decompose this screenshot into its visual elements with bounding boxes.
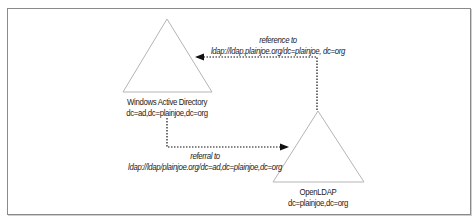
active-directory-name: Windows Active Directory: [127, 96, 207, 107]
referral-label-url: ldap://ldap/plainjoe.org/dc=ad,dc=plainj…: [128, 161, 282, 172]
reference-arrow: [196, 57, 317, 110]
reference-label-title: reference to: [259, 34, 297, 45]
active-directory-triangle: [123, 19, 212, 92]
active-directory-dn: dc=ad,dc=plainjoe,dc=org: [126, 107, 208, 118]
referral-arrow: [167, 118, 288, 147]
openldap-dn: dc=plainjoe,dc=org: [288, 197, 348, 208]
openldap-triangle: [273, 111, 364, 182]
diagram-canvas: [0, 0, 476, 222]
referral-label-title: referral to: [190, 150, 220, 161]
reference-label-url: ldap://ldap.plainjoe.org/dc=plainjoe, dc…: [211, 45, 345, 56]
openldap-name: OpenLDAP: [300, 186, 337, 197]
